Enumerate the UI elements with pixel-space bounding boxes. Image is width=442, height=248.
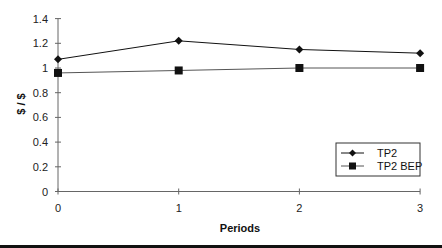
diamond-marker-icon [416, 49, 424, 57]
legend-label-tp2-bep: TP2 BEP [377, 160, 422, 172]
y-axis-title: $ / $ [15, 93, 27, 114]
y-tick-label: 0.4 [33, 136, 48, 148]
legend-label-tp2: TP2 [377, 147, 397, 159]
series-line [58, 68, 420, 73]
square-marker-icon [175, 66, 183, 74]
x-tick-label: 3 [417, 202, 423, 214]
square-marker-icon [349, 163, 356, 170]
y-tick-label: 0.2 [33, 161, 48, 173]
square-marker-icon [295, 64, 303, 72]
line-chart: 00.20.40.60.811.21.4 0123 $ / $ Periods … [0, 0, 442, 248]
square-marker-icon [416, 64, 424, 72]
series-tp2-bep [54, 64, 424, 77]
square-marker-icon [54, 69, 62, 77]
x-axis-title: Periods [220, 222, 260, 234]
y-tick-label: 1.4 [33, 13, 48, 25]
diamond-marker-icon [175, 37, 183, 45]
x-axis: 0123 [55, 189, 423, 215]
y-tick-label: 0 [42, 186, 48, 198]
diamond-marker-icon [295, 45, 303, 53]
series-layer [54, 37, 424, 77]
legend: TP2 TP2 BEP [336, 143, 422, 176]
series-tp2 [54, 37, 424, 64]
diamond-marker-icon [54, 55, 62, 63]
y-tick-label: 0.6 [33, 111, 48, 123]
x-tick-label: 2 [296, 202, 302, 214]
y-tick-label: 0.8 [33, 87, 48, 99]
y-axis: 00.20.40.60.811.21.4 [33, 13, 61, 198]
x-tick-label: 1 [176, 202, 182, 214]
x-tick-label: 0 [55, 202, 61, 214]
y-tick-label: 1.2 [33, 37, 48, 49]
series-line [58, 41, 420, 60]
y-tick-label: 1 [42, 62, 48, 74]
